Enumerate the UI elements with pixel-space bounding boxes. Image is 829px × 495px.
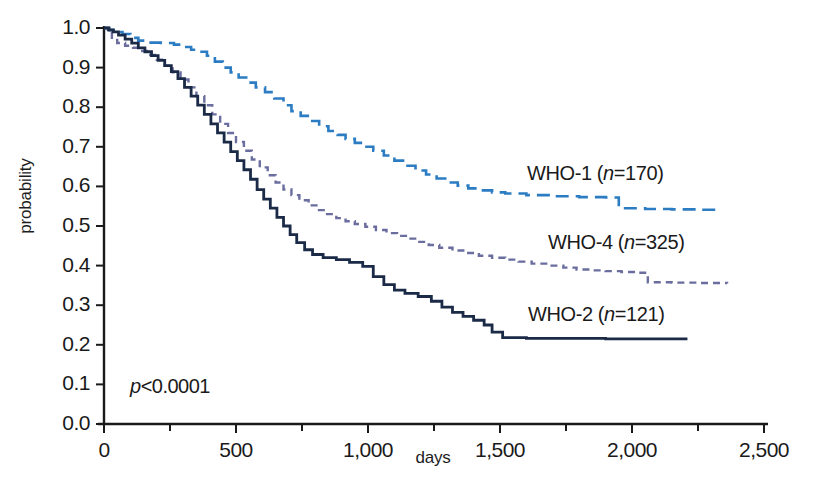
x-axis-tick-label: 2,500 [719, 438, 809, 462]
y-axis-tick-label: 0.1 [38, 371, 90, 395]
p-value-rest: <0.0001 [141, 375, 210, 397]
series-label-who-4-n: 325 [646, 231, 678, 253]
y-axis-tick-label: 0.3 [38, 292, 90, 316]
y-axis-tick-label: 0.5 [38, 213, 90, 237]
x-axis-tick-label: 1,000 [323, 438, 413, 462]
y-axis-tick-label: 0.6 [38, 173, 90, 197]
kaplan-meier-figure: probability p<0.0001 WHO-1 (n=170) WHO-4… [0, 0, 829, 495]
x-axis-tick-label: 2,000 [587, 438, 677, 462]
series-label-who-2-name: WHO-2 [528, 303, 593, 325]
series-label-who-1: WHO-1 (n=170) [527, 162, 664, 185]
y-axis-tick-label: 1.0 [38, 15, 90, 39]
y-axis-tick-label: 0.2 [38, 332, 90, 356]
x-axis-tick-label: 1,500 [455, 438, 545, 462]
series-label-who-1-n: 170 [625, 162, 657, 184]
series-label-who-4-name: WHO-4 [548, 231, 613, 253]
plot-canvas [0, 0, 829, 495]
y-axis-tick-label: 0.9 [38, 55, 90, 79]
y-axis-tick-label: 0.7 [38, 134, 90, 158]
series-label-who-2: WHO-2 (n=121) [528, 303, 665, 326]
p-value-symbol: p [130, 375, 141, 397]
x-axis-tick-label: 500 [191, 438, 281, 462]
series-label-who-4: WHO-4 (n=325) [548, 231, 685, 254]
x-axis-title: days [416, 448, 451, 468]
page-edge-artifact [0, 478, 230, 495]
series-label-who-2-n: 121 [626, 303, 658, 325]
y-axis-tick-label: 0.4 [38, 253, 90, 277]
series-label-who-1-name: WHO-1 [527, 162, 592, 184]
p-value-annotation: p<0.0001 [130, 375, 210, 398]
y-axis-tick-label: 0.8 [38, 94, 90, 118]
x-axis-tick-label: 0 [59, 438, 149, 462]
y-axis-tick-label: 0.0 [38, 411, 90, 435]
